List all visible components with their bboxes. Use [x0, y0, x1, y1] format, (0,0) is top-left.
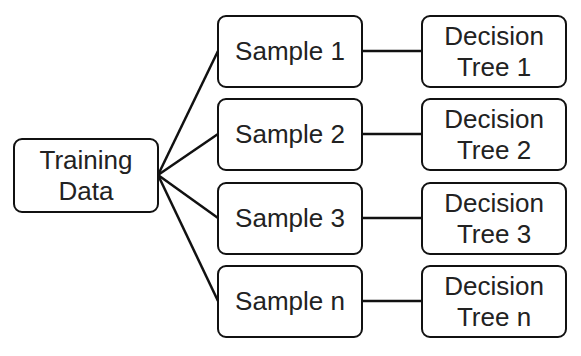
- sample-label: Sample 1: [235, 36, 345, 67]
- tree-line2: Tree 1: [444, 52, 544, 83]
- tree-line1: Decision: [444, 271, 544, 302]
- connector-root-sample-1: [158, 51, 218, 175]
- decision-tree-node-3: Decision Tree 3: [421, 182, 567, 255]
- decision-tree-node-2: Decision Tree 2: [421, 98, 567, 171]
- connector-root-sample-n: [158, 175, 218, 301]
- tree-line1: Decision: [444, 188, 544, 219]
- sample-label: Sample 3: [235, 203, 345, 234]
- sample-label: Sample 2: [235, 119, 345, 150]
- tree-line1: Decision: [444, 104, 544, 135]
- sample-node-3: Sample 3: [217, 182, 363, 255]
- sample-label: Sample n: [235, 286, 345, 317]
- training-data-line2: Data: [40, 176, 133, 207]
- sample-node-2: Sample 2: [217, 98, 363, 171]
- sample-node-1: Sample 1: [217, 15, 363, 88]
- tree-line1: Decision: [444, 21, 544, 52]
- tree-line2: Tree 2: [444, 135, 544, 166]
- sample-node-n: Sample n: [217, 265, 363, 338]
- training-data-node: Training Data: [13, 138, 159, 213]
- training-data-line1: Training: [40, 145, 133, 176]
- decision-tree-node-n: Decision Tree n: [421, 265, 567, 338]
- decision-tree-node-1: Decision Tree 1: [421, 15, 567, 88]
- tree-line2: Tree n: [444, 302, 544, 333]
- tree-line2: Tree 3: [444, 219, 544, 250]
